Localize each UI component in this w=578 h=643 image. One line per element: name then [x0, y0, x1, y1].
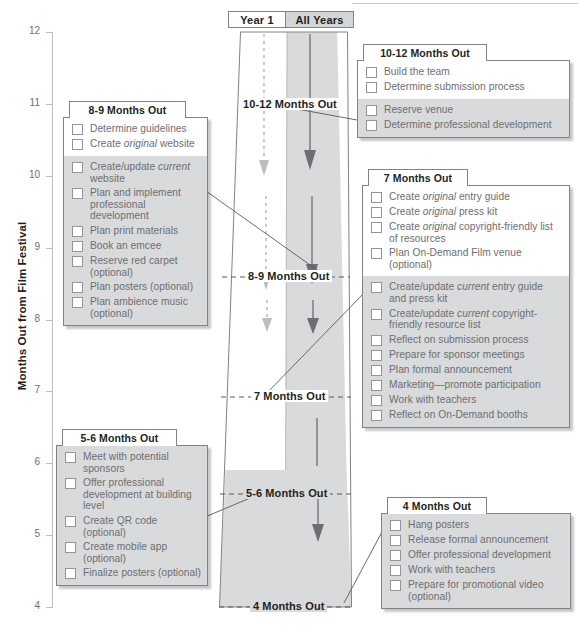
task-item[interactable]: Create mobile app (optional): [65, 541, 201, 564]
task-item[interactable]: Create original entry guide: [371, 191, 563, 203]
checkbox-icon[interactable]: [390, 565, 401, 576]
stage-label-8-9: 8-9 Months Out: [245, 270, 332, 282]
checkbox-icon[interactable]: [371, 395, 382, 406]
task-label: Plan posters (optional): [90, 281, 193, 293]
checkbox-icon[interactable]: [72, 256, 83, 267]
checkbox-icon[interactable]: [72, 297, 83, 308]
task-label: Offer professional development at buildi…: [83, 477, 201, 512]
task-item[interactable]: Plan formal announcement: [371, 364, 563, 376]
checkbox-icon[interactable]: [366, 105, 377, 116]
task-label: Determine guidelines: [90, 123, 187, 135]
checkbox-icon[interactable]: [371, 192, 382, 203]
checkbox-icon[interactable]: [72, 226, 83, 237]
checkbox-icon[interactable]: [65, 568, 76, 579]
task-item[interactable]: Release formal announcement: [390, 534, 564, 546]
task-item[interactable]: Plan On-Demand Film venue (optional): [371, 247, 563, 270]
task-item[interactable]: Prepare for promotional video (optional): [390, 579, 564, 602]
task-label: Create/update current website: [90, 161, 201, 184]
task-section-grey: Reserve venueDetermine professional deve…: [358, 99, 569, 137]
column-header-all-years: All Years: [285, 11, 354, 28]
task-item[interactable]: Create original press kit: [371, 206, 563, 218]
task-item[interactable]: Create original copyright-friendly list …: [371, 221, 563, 244]
panel-title-tab: 10-12 Months Out: [363, 44, 487, 61]
task-item[interactable]: Finalize posters (optional): [65, 567, 201, 579]
task-item[interactable]: Reflect on On-Demand booths: [371, 409, 563, 421]
task-label: Meet with potential sponsors: [83, 451, 201, 474]
task-label: Create original website: [90, 138, 195, 150]
task-item[interactable]: Prepare for sponsor meetings: [371, 349, 563, 361]
checkbox-icon[interactable]: [371, 410, 382, 421]
task-label: Reserve venue: [384, 104, 453, 116]
checkbox-icon[interactable]: [65, 478, 76, 489]
checkbox-icon[interactable]: [366, 120, 377, 131]
task-item[interactable]: Build the team: [366, 66, 563, 78]
checkbox-icon[interactable]: [72, 188, 83, 199]
checkbox-icon[interactable]: [371, 335, 382, 346]
task-item[interactable]: Create/update current website: [72, 161, 201, 184]
task-item[interactable]: Hang posters: [390, 519, 564, 531]
checkbox-icon[interactable]: [371, 207, 382, 218]
checkbox-icon[interactable]: [390, 550, 401, 561]
task-item[interactable]: Reflect on submission process: [371, 334, 563, 346]
task-label: Determine submission process: [384, 81, 525, 93]
task-section-grey: Meet with potential sponsorsOffer profes…: [57, 446, 207, 585]
checkbox-icon[interactable]: [371, 282, 382, 293]
checkbox-icon[interactable]: [65, 452, 76, 463]
task-item[interactable]: Create QR code (optional): [65, 515, 201, 538]
task-label: Reserve red carpet (optional): [90, 255, 201, 278]
task-section-grey: Hang postersRelease formal announcementO…: [382, 514, 570, 608]
task-item[interactable]: Work with teachers: [371, 394, 563, 406]
checkbox-icon[interactable]: [371, 222, 382, 233]
checkbox-icon[interactable]: [366, 82, 377, 93]
panel-title-tab: 5-6 Months Out: [62, 429, 177, 446]
task-item[interactable]: Plan print materials: [72, 225, 201, 237]
checkbox-icon[interactable]: [65, 542, 76, 553]
checkbox-icon[interactable]: [390, 520, 401, 531]
task-item[interactable]: Reserve venue: [366, 104, 563, 116]
panel-title-tab: 4 Months Out: [387, 497, 487, 514]
task-item[interactable]: Determine submission process: [366, 81, 563, 93]
checkbox-icon[interactable]: [72, 124, 83, 135]
checkbox-icon[interactable]: [366, 67, 377, 78]
checkbox-icon[interactable]: [390, 580, 401, 591]
panel-body: Determine guidelinesCreate original webs…: [63, 117, 208, 326]
task-item[interactable]: Determine guidelines: [72, 123, 201, 135]
panel-body: Create original entry guideCreate origin…: [362, 185, 570, 428]
task-label: Book an emcee: [90, 240, 161, 252]
task-label: Plan On-Demand Film venue (optional): [389, 247, 563, 270]
checkbox-icon[interactable]: [72, 139, 83, 150]
checkbox-icon[interactable]: [371, 380, 382, 391]
task-item[interactable]: Offer professional development at buildi…: [65, 477, 201, 512]
task-label: Plan formal announcement: [389, 364, 512, 376]
task-label: Reflect on On-Demand booths: [389, 409, 528, 421]
task-label: Release formal announcement: [408, 534, 548, 546]
checkbox-icon[interactable]: [72, 241, 83, 252]
checkbox-icon[interactable]: [371, 248, 382, 259]
checkbox-icon[interactable]: [371, 365, 382, 376]
stage-label-10-12: 10-12 Months Out: [240, 98, 340, 110]
task-item[interactable]: Determine professional development: [366, 119, 563, 131]
task-item[interactable]: Reserve red carpet (optional): [72, 255, 201, 278]
checkbox-icon[interactable]: [72, 162, 83, 173]
task-item[interactable]: Offer professional development: [390, 549, 564, 561]
checkbox-icon[interactable]: [72, 282, 83, 293]
checkbox-icon[interactable]: [371, 309, 382, 320]
stage-label-5-6: 5-6 Months Out: [243, 487, 330, 499]
task-item[interactable]: Marketing—promote participation: [371, 379, 563, 391]
task-item[interactable]: Create original website: [72, 138, 201, 150]
task-item[interactable]: Plan and implement professional developm…: [72, 187, 201, 222]
task-label: Finalize posters (optional): [83, 567, 201, 579]
checkbox-icon[interactable]: [371, 350, 382, 361]
task-item[interactable]: Create/update current entry guide and pr…: [371, 281, 563, 304]
task-section-white: Build the teamDetermine submission proce…: [358, 61, 569, 99]
task-label: Create original entry guide: [389, 191, 510, 203]
task-item[interactable]: Plan posters (optional): [72, 281, 201, 293]
checkbox-icon[interactable]: [390, 535, 401, 546]
task-item[interactable]: Plan ambience music (optional): [72, 296, 201, 319]
task-item[interactable]: Work with teachers: [390, 564, 564, 576]
task-item[interactable]: Book an emcee: [72, 240, 201, 252]
task-item[interactable]: Create/update current copyright-friendly…: [371, 308, 563, 331]
checkbox-icon[interactable]: [65, 516, 76, 527]
task-label: Marketing—promote participation: [389, 379, 541, 391]
task-item[interactable]: Meet with potential sponsors: [65, 451, 201, 474]
